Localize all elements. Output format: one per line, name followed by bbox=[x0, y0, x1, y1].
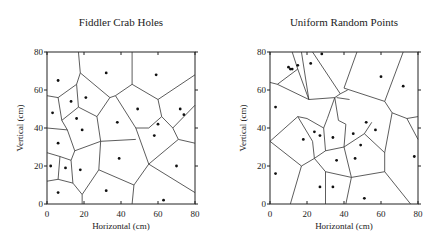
voronoi-edge bbox=[97, 117, 101, 142]
voronoi-edge bbox=[47, 179, 58, 181]
voronoi-edge bbox=[47, 128, 67, 130]
voronoi-edge bbox=[134, 164, 149, 185]
voronoi-edge bbox=[101, 139, 136, 141]
y-axis-label: Vertical (cm) bbox=[15, 104, 25, 151]
voronoi-edge bbox=[149, 164, 195, 193]
data-point bbox=[162, 199, 165, 202]
voronoi-edge bbox=[99, 170, 134, 185]
voronoi-edge bbox=[385, 172, 411, 204]
voronoi-edge bbox=[132, 185, 134, 204]
voronoi-edge bbox=[340, 90, 347, 94]
x-tick-label: 40 bbox=[117, 209, 127, 219]
voronoi-edge bbox=[344, 147, 351, 177]
data-point bbox=[179, 108, 182, 111]
y-tick-label: 60 bbox=[257, 85, 267, 95]
data-point bbox=[49, 165, 52, 168]
voronoi-edge bbox=[71, 151, 75, 161]
voronoi-edge bbox=[67, 130, 74, 151]
data-point bbox=[155, 73, 158, 76]
voronoi-edge bbox=[270, 82, 277, 84]
data-point bbox=[313, 130, 316, 133]
voronoi-edge bbox=[324, 128, 326, 151]
y-tick-label: 20 bbox=[34, 161, 44, 171]
plot-title: Uniform Random Points bbox=[290, 16, 398, 28]
data-point bbox=[319, 134, 322, 137]
x-tick-label: 20 bbox=[80, 209, 90, 219]
voronoi-edge bbox=[301, 52, 308, 100]
data-point bbox=[320, 53, 323, 56]
voronoi-edge bbox=[149, 117, 162, 128]
voronoi-edge bbox=[326, 172, 352, 178]
data-point bbox=[335, 159, 338, 162]
data-point bbox=[64, 167, 67, 170]
data-point bbox=[116, 121, 119, 124]
data-point bbox=[57, 79, 60, 82]
data-point bbox=[296, 64, 299, 67]
voronoi-edge bbox=[158, 100, 162, 117]
axis-ticks: 020406080020406080 bbox=[257, 47, 423, 219]
data-point bbox=[332, 186, 335, 189]
voronoi-edge bbox=[149, 139, 179, 164]
data-point bbox=[274, 172, 277, 175]
voronoi-edge bbox=[335, 94, 341, 98]
y-tick-label: 20 bbox=[257, 161, 267, 171]
data-point bbox=[51, 111, 54, 114]
voronoi-edge bbox=[344, 124, 346, 147]
voronoi-edges bbox=[270, 52, 418, 204]
y-tick-label: 80 bbox=[257, 47, 267, 57]
voronoi-edge bbox=[309, 98, 335, 100]
data-point bbox=[57, 191, 60, 194]
data-point bbox=[413, 155, 416, 158]
figure: Fiddler Crab Holes 020406080020406080 Ho… bbox=[0, 0, 443, 244]
voronoi-edge bbox=[344, 52, 357, 88]
voronoi-edge bbox=[385, 52, 404, 101]
voronoi-edge bbox=[292, 52, 298, 69]
voronoi-edge bbox=[337, 98, 350, 100]
y-tick-label: 40 bbox=[34, 123, 44, 133]
voronoi-edge bbox=[364, 134, 384, 153]
data-point bbox=[136, 108, 139, 111]
voronoi-edge bbox=[307, 119, 324, 129]
voronoi-edge bbox=[136, 128, 149, 164]
x-axis-label: Horizontal (cm) bbox=[92, 221, 150, 231]
data-point bbox=[354, 157, 357, 160]
x-tick-label: 0 bbox=[268, 209, 273, 219]
voronoi-edge bbox=[364, 122, 371, 133]
data-point bbox=[105, 72, 108, 75]
x-tick-label: 0 bbox=[45, 209, 50, 219]
data-point bbox=[380, 75, 383, 78]
voronoi-edge bbox=[385, 113, 392, 153]
voronoi-edge bbox=[313, 141, 315, 158]
voronoi-edge bbox=[270, 141, 301, 166]
x-tick-label: 80 bbox=[191, 209, 201, 219]
data-point bbox=[274, 106, 277, 109]
voronoi-edge bbox=[290, 166, 301, 204]
data-point bbox=[118, 157, 121, 160]
voronoi-edge bbox=[407, 119, 418, 140]
voronoi-edge bbox=[132, 84, 158, 99]
data-point bbox=[374, 129, 377, 132]
voronoi-edge bbox=[58, 98, 62, 121]
data-point bbox=[81, 129, 84, 132]
voronoi-edge bbox=[314, 151, 325, 159]
voronoi-edge bbox=[301, 158, 314, 166]
voronoi-edge bbox=[77, 73, 81, 84]
data-point bbox=[57, 142, 60, 145]
data-point bbox=[79, 168, 82, 171]
voronoi-edge bbox=[71, 160, 73, 183]
plot-title: Fiddler Crab Holes bbox=[79, 16, 163, 28]
voronoi-edge bbox=[58, 84, 77, 97]
plot-frame bbox=[270, 52, 418, 204]
voronoi-edge bbox=[326, 147, 345, 151]
fiddler-crab-plot: Fiddler Crab Holes 020406080020406080 Ho… bbox=[15, 16, 200, 231]
voronoi-edge bbox=[392, 113, 407, 119]
x-tick-label: 60 bbox=[154, 209, 164, 219]
y-tick-label: 0 bbox=[262, 199, 267, 209]
voronoi-edge bbox=[110, 96, 116, 98]
voronoi-edge bbox=[313, 52, 341, 94]
data-point bbox=[352, 132, 355, 135]
y-tick-label: 40 bbox=[257, 123, 267, 133]
voronoi-edge bbox=[270, 117, 298, 142]
data-point bbox=[75, 117, 78, 120]
voronoi-edge bbox=[78, 107, 97, 117]
